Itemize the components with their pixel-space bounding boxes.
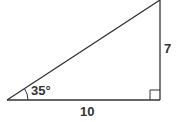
angle-arc: [25, 89, 29, 100]
angle-label: 35°: [31, 83, 51, 98]
triangle-diagram: 35° 10 7: [0, 0, 177, 122]
hypotenuse: [7, 0, 160, 100]
base-label: 10: [80, 104, 94, 119]
height-label: 7: [164, 41, 171, 56]
right-angle-marker: [150, 90, 160, 100]
